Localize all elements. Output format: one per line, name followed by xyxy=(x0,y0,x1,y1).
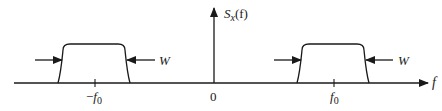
band-left-shape xyxy=(58,44,130,83)
psd-axis-label-arg: (f) xyxy=(235,6,248,21)
tick-label-neg-f0-sub: 0 xyxy=(97,95,102,106)
frequency-axis-label: f xyxy=(432,75,438,90)
tick-label-neg-f0: −f0 xyxy=(86,89,102,106)
tick-label-neg-f0-prefix: − xyxy=(86,89,93,104)
tick-label-pos-f0-sub: 0 xyxy=(334,95,339,106)
tick-label-pos-f0: f0 xyxy=(330,89,339,106)
width-label-left: W xyxy=(159,53,171,68)
band-right-shape xyxy=(297,44,369,83)
width-label-right: W xyxy=(398,53,410,68)
psd-diagram: W W −f0 f0 0 f Sx(f) xyxy=(0,0,442,111)
psd-axis-label: Sx(f) xyxy=(224,6,248,23)
origin-label: 0 xyxy=(210,89,217,104)
